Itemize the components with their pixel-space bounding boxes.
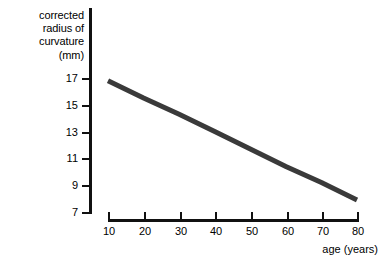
x-axis-tick bbox=[180, 212, 182, 220]
x-axis-tick bbox=[251, 212, 253, 220]
y-axis-title-line-4: (mm) bbox=[6, 49, 84, 62]
x-axis-tick-label: 30 bbox=[166, 226, 196, 237]
y-axis-title-line-3: curvature bbox=[6, 35, 84, 48]
y-axis-tick bbox=[82, 132, 90, 134]
y-axis-tick-label: 7 bbox=[52, 207, 78, 218]
x-axis-tick-label: 60 bbox=[273, 226, 303, 237]
x-axis-tick-label: 20 bbox=[130, 226, 160, 237]
y-axis-tick bbox=[82, 78, 90, 80]
chart-figure: corrected radius of curvature (mm) 17 15… bbox=[0, 0, 385, 267]
y-axis-title: corrected radius of curvature (mm) bbox=[6, 9, 84, 62]
x-axis-tick-label: 70 bbox=[308, 226, 338, 237]
y-axis-line bbox=[89, 8, 92, 214]
x-axis-tick-label: 10 bbox=[94, 226, 124, 237]
y-axis-tick bbox=[82, 185, 90, 187]
x-axis-tick-label: 50 bbox=[237, 226, 267, 237]
x-axis-tick bbox=[287, 212, 289, 220]
y-axis-tick-label: 17 bbox=[52, 73, 78, 84]
x-axis-tick bbox=[322, 212, 324, 220]
x-axis-tick-label: 40 bbox=[201, 226, 231, 237]
x-axis-tick bbox=[144, 212, 146, 220]
y-axis-tick-label: 9 bbox=[52, 180, 78, 191]
y-axis-tick bbox=[82, 105, 90, 107]
y-axis-tick-label: 11 bbox=[52, 153, 78, 164]
y-axis-tick-label: 15 bbox=[52, 100, 78, 111]
y-axis-tick-label: 13 bbox=[52, 127, 78, 138]
x-axis-tick bbox=[108, 212, 110, 220]
x-axis-tick bbox=[215, 212, 217, 220]
y-axis-tick bbox=[82, 212, 90, 214]
x-axis-title: age (years) bbox=[230, 243, 378, 255]
y-axis-tick bbox=[82, 158, 90, 160]
y-axis-title-line-2: radius of bbox=[6, 22, 84, 35]
x-axis-tick bbox=[357, 212, 359, 220]
y-axis-title-line-1: corrected bbox=[6, 9, 84, 22]
data-series-line bbox=[108, 81, 357, 200]
x-axis-tick-label: 80 bbox=[343, 226, 373, 237]
